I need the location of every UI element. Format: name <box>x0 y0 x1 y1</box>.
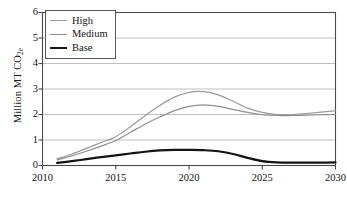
emissions-line-chart: Million MT CO2e 6543210 2010201520202025… <box>0 0 347 198</box>
x-tick-marks <box>43 166 336 170</box>
legend-label-base: Base <box>72 43 92 54</box>
legend-swatch-high-icon <box>50 20 67 21</box>
legend-item-base[interactable]: Base <box>50 41 108 55</box>
series-line-high <box>57 91 335 159</box>
legend-swatch-medium-icon <box>50 34 67 35</box>
legend-swatch-base-icon <box>50 47 67 49</box>
series-line-base <box>57 150 335 163</box>
legend-label-medium: Medium <box>72 29 108 40</box>
y-tick-marks <box>39 13 43 166</box>
series-line-medium <box>57 105 335 160</box>
legend-label-high: High <box>72 16 93 27</box>
series-lines <box>57 91 335 163</box>
legend-item-medium[interactable]: Medium <box>50 28 108 42</box>
chart-legend: HighMediumBase <box>45 10 116 59</box>
legend-item-high[interactable]: High <box>50 14 108 28</box>
